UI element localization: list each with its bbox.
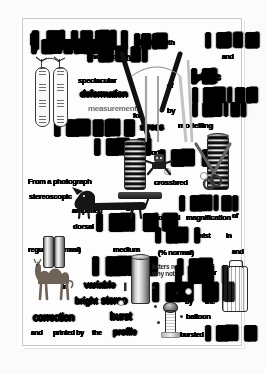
small-figure-illustration (146, 150, 172, 176)
ink-speckle-hollow (185, 288, 192, 295)
text-fragment-f43: variable (84, 279, 115, 290)
twin-test-tube-illustration (33, 57, 75, 129)
text-fragment-f46: ▌▐█▊▍▐ (176, 266, 226, 282)
ink-speckle (180, 315, 183, 318)
lamp-base (161, 332, 180, 338)
text-fragment-f37: (% normal) (158, 248, 194, 257)
test-tube-right (53, 67, 68, 127)
suitcase-body (222, 266, 248, 312)
text-fragment-f31: of (232, 212, 238, 219)
text-fragment-f07: spectacular (78, 76, 116, 85)
ink-speckle (157, 321, 160, 324)
ink-speckle (152, 286, 155, 289)
text-fragment-f55: balloon (186, 312, 211, 321)
text-fragment-f58: the (92, 329, 102, 336)
text-fragment-f29: optical (158, 213, 180, 222)
tall-cylinder-illustration (131, 256, 150, 304)
text-fragment-f34: ▌▐█▊▍▐ (156, 228, 198, 242)
text-fragment-f05: ▌▐█▍▊▐█▎ (206, 33, 264, 47)
lamp-body (165, 310, 176, 334)
text-fragment-f30: magnification (186, 213, 231, 222)
dachshund-dog-illustration (58, 185, 150, 219)
coil-spring-body (124, 142, 146, 190)
text-fragment-f54: burst (110, 311, 132, 322)
text-fragment-f33: medium (113, 245, 140, 254)
text-fragment-f28: ▌▐█▊▍▎█▐ (180, 196, 236, 210)
text-fragment-f61: ▌▐█▊▍▐█ (206, 326, 255, 340)
text-fragment-f36: in (226, 232, 232, 239)
text-fragment-f23: crossbred (154, 178, 188, 187)
ink-speckle-hollow (200, 172, 208, 180)
crossing-strut-lines-illustration (118, 50, 208, 145)
text-fragment-f57: printed by (53, 329, 84, 336)
small-cylinder-illustration (43, 236, 54, 268)
dog-support-bar (118, 192, 162, 199)
text-fragment-f49: bright (75, 296, 98, 306)
test-tube-left (35, 67, 50, 127)
ink-speckle-hollow (118, 300, 124, 306)
text-fragment-f56: and (31, 329, 43, 336)
tall-cylinder-top (131, 254, 150, 260)
test-tube-yoke (33, 57, 75, 75)
text-fragment-f47: or (210, 269, 216, 276)
coil-spring-illustration (124, 139, 146, 191)
text-fragment-f60: bursted (180, 331, 204, 338)
text-fragment-f04: with (161, 38, 175, 47)
text-fragment-f27: dorsal (73, 222, 94, 231)
suitcase-illustration (222, 260, 248, 312)
text-fragment-f45: why not (152, 270, 174, 277)
text-fragment-f35: exist (196, 232, 210, 239)
ink-speckle (176, 292, 178, 294)
text-fragment-f38: and (232, 248, 244, 255)
ink-speckle (154, 305, 157, 308)
text-fragment-f51: by (185, 298, 193, 305)
scissors-illustration (190, 142, 238, 198)
text-fragment-f52: the (205, 298, 215, 305)
desk-lamp-illustration (160, 302, 180, 338)
small-cylinder-illustration-2 (54, 236, 65, 268)
text-fragment-f59: profile (113, 327, 136, 337)
text-fragment-f53: correction (33, 312, 74, 323)
scanned-page: Ⅰ▌▐█▎▌█▐▊▍▌ ▌▐█▊▍█▐▊▌█▐ morphology ▌▐█▍▊… (0, 0, 265, 374)
text-fragment-f06: and (222, 53, 234, 60)
